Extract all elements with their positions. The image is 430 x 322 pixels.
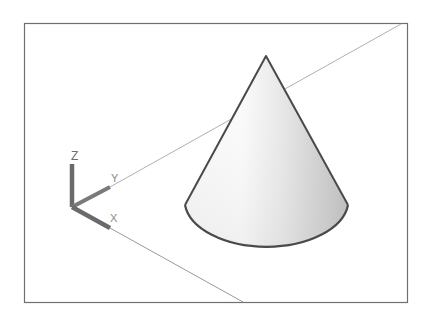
- ucs-y-label: Y: [111, 172, 119, 184]
- ucs-x-label: X: [110, 212, 118, 224]
- drawing-viewport[interactable]: Z Y X: [0, 0, 430, 322]
- ucs-z-label: Z: [71, 149, 78, 163]
- viewport-canvas: Z Y X: [0, 0, 430, 322]
